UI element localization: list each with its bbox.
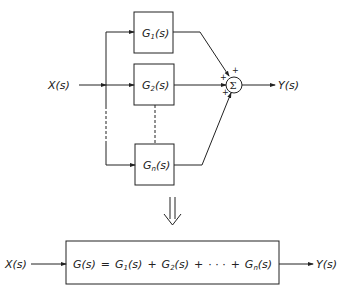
plus-sign-left: +	[220, 73, 227, 82]
input-label: X(s)	[47, 79, 70, 92]
equivalent-output-label: Y(s)	[316, 258, 337, 271]
plus-sign-top: +	[232, 66, 239, 75]
reduction-arrow-head	[164, 214, 181, 225]
block-g2-label: G2(s)	[142, 79, 169, 93]
output-label: Y(s)	[278, 79, 299, 92]
block-gn-label: Gn(s)	[143, 159, 170, 173]
block-g1-label: G1(s)	[142, 27, 169, 41]
sigma-symbol: Σ	[230, 80, 237, 91]
gn-output-line	[174, 93, 231, 165]
plus-sign-bottom: +	[222, 88, 229, 97]
block-diagram: X(s) G1(s) G2(s) Gn(s) Σ + + + Y(s) X(s)…	[0, 0, 345, 299]
equivalent-input-label: X(s)	[4, 258, 27, 271]
equivalent-equation: G(s)=G1(s)+G2(s)+· · ·+Gn(s)	[73, 258, 272, 272]
g1-output-line	[173, 32, 229, 76]
